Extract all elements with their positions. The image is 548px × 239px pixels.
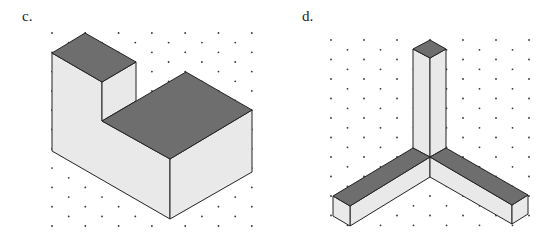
- grid-dot: [363, 137, 365, 139]
- grid-dot: [251, 225, 253, 227]
- grid-dot: [151, 51, 153, 53]
- grid-dot: [413, 224, 415, 226]
- grid-dot: [101, 196, 103, 198]
- grid-dot: [495, 137, 497, 139]
- grid-dot: [479, 146, 481, 148]
- grid-dot: [363, 78, 365, 80]
- grid-dot: [396, 59, 398, 61]
- figure-c-solid: [52, 33, 252, 219]
- grid-dot: [84, 225, 86, 227]
- grid-dot: [251, 51, 253, 53]
- grid-dot: [201, 216, 203, 218]
- grid-dot: [234, 196, 236, 198]
- grid-dot: [251, 187, 253, 189]
- grid-dot: [528, 117, 530, 119]
- grid-dot: [528, 59, 530, 61]
- grid-dot: [51, 206, 53, 208]
- grid-dot: [347, 88, 349, 90]
- grid-dot: [84, 187, 86, 189]
- grid-dot: [330, 39, 332, 41]
- grid-dot: [251, 206, 253, 208]
- grid-dot: [101, 216, 103, 218]
- grid-dot: [234, 61, 236, 63]
- grid-dot: [330, 195, 332, 197]
- grid-dot: [462, 117, 464, 119]
- grid-dot: [234, 80, 236, 82]
- grid-dot: [396, 78, 398, 80]
- grid-dot: [330, 156, 332, 158]
- grid-dot: [495, 98, 497, 100]
- grid-dot: [118, 206, 120, 208]
- grid-dot: [512, 88, 514, 90]
- grid-dot: [512, 166, 514, 168]
- grid-dot: [479, 49, 481, 51]
- grid-dot: [462, 39, 464, 41]
- grid-dot: [134, 216, 136, 218]
- grid-dot: [347, 146, 349, 148]
- grid-dot: [347, 49, 349, 51]
- grid-dot: [528, 78, 530, 80]
- grid-dot: [462, 78, 464, 80]
- grid-dot: [151, 32, 153, 34]
- grid-dot: [495, 39, 497, 41]
- grid-dot: [218, 32, 220, 34]
- grid-dot: [479, 68, 481, 70]
- isometric-diagrams: [0, 0, 548, 239]
- grid-dot: [201, 61, 203, 63]
- figure-d-pillar-right-face: [430, 49, 446, 157]
- grid-dot: [363, 156, 365, 158]
- grid-dot: [380, 49, 382, 51]
- grid-dot: [396, 137, 398, 139]
- grid-dot: [51, 225, 53, 227]
- grid-dot: [51, 167, 53, 169]
- grid-dot: [234, 42, 236, 44]
- grid-dot: [251, 32, 253, 34]
- grid-dot: [528, 156, 530, 158]
- grid-dot: [134, 42, 136, 44]
- grid-dot: [380, 68, 382, 70]
- grid-dot: [495, 59, 497, 61]
- figure-d-solid: [333, 40, 528, 226]
- grid-dot: [184, 225, 186, 227]
- grid-dot: [495, 156, 497, 158]
- grid-dot: [330, 137, 332, 139]
- grid-dot: [512, 107, 514, 109]
- grid-dot: [396, 98, 398, 100]
- grid-dot: [347, 127, 349, 129]
- grid-dot: [218, 71, 220, 73]
- grid-dot: [479, 224, 481, 226]
- grid-dot: [168, 61, 170, 63]
- grid-dot: [479, 88, 481, 90]
- grid-dot: [151, 225, 153, 227]
- grid-dot: [512, 127, 514, 129]
- grid-dot: [347, 68, 349, 70]
- grid-dot: [396, 215, 398, 217]
- grid-dot: [330, 98, 332, 100]
- grid-dot: [462, 98, 464, 100]
- grid-dot: [68, 216, 70, 218]
- grid-dot: [396, 117, 398, 119]
- grid-dot: [330, 215, 332, 217]
- grid-dot: [218, 225, 220, 227]
- grid-dot: [68, 196, 70, 198]
- grid-dot: [363, 59, 365, 61]
- grid-dot: [528, 39, 530, 41]
- grid-dot: [380, 224, 382, 226]
- grid-dot: [446, 224, 448, 226]
- grid-dot: [347, 107, 349, 109]
- grid-dot: [528, 137, 530, 139]
- grid-dot: [380, 107, 382, 109]
- grid-dot: [68, 177, 70, 179]
- grid-dot: [380, 88, 382, 90]
- grid-dot: [495, 117, 497, 119]
- grid-dot: [512, 146, 514, 148]
- grid-dot: [151, 71, 153, 73]
- grid-dot: [218, 51, 220, 53]
- grid-dot: [251, 90, 253, 92]
- grid-dot: [184, 32, 186, 34]
- grid-dot: [201, 42, 203, 44]
- grid-dot: [462, 59, 464, 61]
- grid-dot: [330, 117, 332, 119]
- grid-dot: [380, 127, 382, 129]
- grid-dot: [479, 127, 481, 129]
